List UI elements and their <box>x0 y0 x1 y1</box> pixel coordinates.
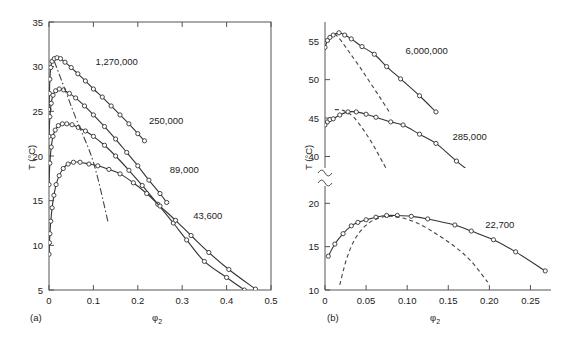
data-point <box>333 242 337 246</box>
data-point <box>374 115 378 119</box>
axis-break-squiggle <box>318 180 332 186</box>
data-point <box>349 37 353 41</box>
panel-b-x-tick-label: 0.25 <box>521 295 540 306</box>
data-point <box>399 77 403 81</box>
data-point <box>385 64 389 68</box>
panel-b-x-tick-label: 0 <box>322 295 327 306</box>
panel-b-y-tick-label: 10 <box>308 285 319 296</box>
data-point <box>417 94 421 98</box>
panel-b-y-tick-label: 55 <box>308 36 319 47</box>
axis-break-squiggle <box>318 170 332 176</box>
data-point <box>453 223 457 227</box>
data-point <box>364 112 368 116</box>
data-point <box>343 33 347 37</box>
panel-b-x-axis-label: φ2 <box>430 312 440 325</box>
data-point <box>475 175 479 179</box>
data-point <box>338 113 342 117</box>
data-point <box>331 33 335 37</box>
panel-b-curve-label: 22,700 <box>485 219 514 230</box>
data-point <box>454 159 458 163</box>
panel-b-series-22700-theory <box>340 216 488 284</box>
panel-b-curve-label: 6,000,000 <box>406 45 448 56</box>
panel-b-y-tick-label: 50 <box>308 74 319 85</box>
data-point <box>349 224 353 228</box>
panel-b-y-tick-label: 20 <box>308 198 319 209</box>
data-point <box>356 220 360 224</box>
panel-b-label: (b) <box>327 312 339 323</box>
data-point <box>354 110 358 114</box>
panel-b-x-tick-label: 0.20 <box>480 295 499 306</box>
data-point <box>491 238 495 242</box>
phi-subscript: 2 <box>436 318 440 325</box>
data-point <box>364 218 368 222</box>
data-point <box>360 44 364 48</box>
figure-container: 00.10.20.30.40.551015202530351,270,00025… <box>0 0 563 337</box>
panel-b-y-axis-label: T (°C) <box>303 145 314 170</box>
data-point <box>389 120 393 124</box>
panel-b-x-tick-label: 0.05 <box>357 295 376 306</box>
panel-b-y-tick-label: 15 <box>308 241 319 252</box>
data-point <box>372 52 376 56</box>
panel-b-x-tick-label: 0.15 <box>439 295 458 306</box>
data-point <box>469 229 473 233</box>
panel-b-series-285000 <box>325 112 477 178</box>
data-point <box>326 254 330 258</box>
data-point <box>331 117 335 121</box>
panel-b-plot: 00.050.100.150.200.25404550551015206,000… <box>0 0 563 337</box>
data-point <box>426 217 430 221</box>
data-point <box>417 132 421 136</box>
data-point <box>401 123 405 127</box>
data-point <box>409 214 413 218</box>
data-point <box>323 45 327 49</box>
panel-b-x-tick-label: 0.10 <box>398 295 417 306</box>
panel-b-y-tick-label: 45 <box>308 113 319 124</box>
panel-b-curve-label: 285,000 <box>452 131 486 142</box>
data-point <box>434 110 438 114</box>
data-point <box>434 141 438 145</box>
data-point <box>341 232 345 236</box>
data-point <box>514 250 518 254</box>
data-point <box>337 31 341 35</box>
data-point <box>543 269 547 273</box>
